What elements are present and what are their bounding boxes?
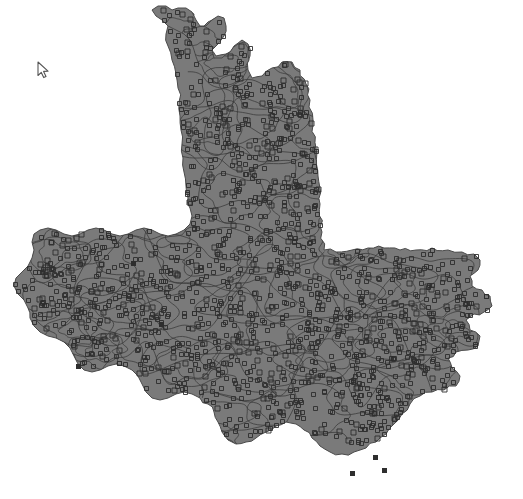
map-application-window: Map View district-polygon contour-lines … <box>0 0 523 499</box>
map-canvas[interactable] <box>0 0 523 499</box>
